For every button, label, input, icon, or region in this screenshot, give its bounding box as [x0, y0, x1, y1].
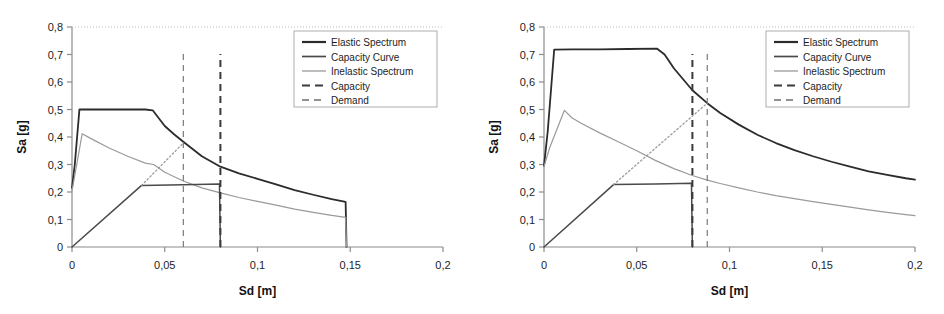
legend-label-capacity-curve: Capacity Curve	[803, 52, 872, 63]
legend-label-elastic-spectrum: Elastic Spectrum	[331, 37, 406, 48]
y-tick-label: 0,7	[48, 49, 63, 61]
chart-panel-right: 00,10,20,30,40,50,60,70,800,050,10,150,2…	[472, 0, 944, 314]
x-tick-label: 0,15	[340, 259, 361, 271]
x-axis-title: Sd [m]	[239, 284, 276, 298]
y-tick-label: 0	[529, 241, 535, 253]
y-tick-label: 0,6	[48, 76, 63, 88]
y-tick-label: 0,2	[520, 186, 535, 198]
y-axis-title: Sa [g]	[15, 120, 29, 153]
y-tick-label: 0,8	[48, 21, 63, 33]
legend-label-inelastic-spectrum: Inelastic Spectrum	[803, 66, 885, 77]
x-tick-label: 0,05	[154, 259, 175, 271]
chart-panel-left: 00,10,20,30,40,50,60,70,800,050,10,150,2…	[0, 0, 472, 314]
y-tick-label: 0,5	[520, 104, 535, 116]
x-tick-label: 0,2	[435, 259, 450, 271]
legend-label-capacity: Capacity	[331, 81, 370, 92]
y-tick-label: 0,8	[520, 21, 535, 33]
legend-label-elastic-spectrum: Elastic Spectrum	[803, 37, 878, 48]
y-tick-label: 0,5	[48, 104, 63, 116]
legend-label-demand: Demand	[331, 95, 369, 106]
x-tick-label: 0,05	[626, 259, 647, 271]
y-tick-label: 0,7	[520, 49, 535, 61]
y-tick-label: 0,3	[520, 159, 535, 171]
two-panel-capacity-spectrum-figure: 00,10,20,30,40,50,60,70,800,050,10,150,2…	[0, 0, 944, 314]
x-tick-label: 0,15	[812, 259, 833, 271]
legend-label-capacity-curve: Capacity Curve	[331, 52, 400, 63]
x-tick-label: 0,2	[907, 259, 922, 271]
chart-svg-right: 00,10,20,30,40,50,60,70,800,050,10,150,2…	[472, 0, 944, 314]
y-tick-label: 0,4	[520, 131, 535, 143]
x-tick-label: 0,1	[722, 259, 737, 271]
x-tick-label: 0	[69, 259, 75, 271]
y-tick-label: 0,1	[48, 214, 63, 226]
y-tick-label: 0,2	[48, 186, 63, 198]
y-tick-label: 0,4	[48, 131, 63, 143]
chart-svg-left: 00,10,20,30,40,50,60,70,800,050,10,150,2…	[0, 0, 472, 314]
y-tick-label: 0	[57, 241, 63, 253]
legend-label-demand: Demand	[803, 95, 841, 106]
legend-label-inelastic-spectrum: Inelastic Spectrum	[331, 66, 413, 77]
x-axis-title: Sd [m]	[711, 284, 748, 298]
y-axis-title: Sa [g]	[487, 120, 501, 153]
legend-label-capacity: Capacity	[803, 81, 842, 92]
x-tick-label: 0,1	[250, 259, 265, 271]
y-tick-label: 0,1	[520, 214, 535, 226]
y-tick-label: 0,6	[520, 76, 535, 88]
y-tick-label: 0,3	[48, 159, 63, 171]
x-tick-label: 0	[541, 259, 547, 271]
